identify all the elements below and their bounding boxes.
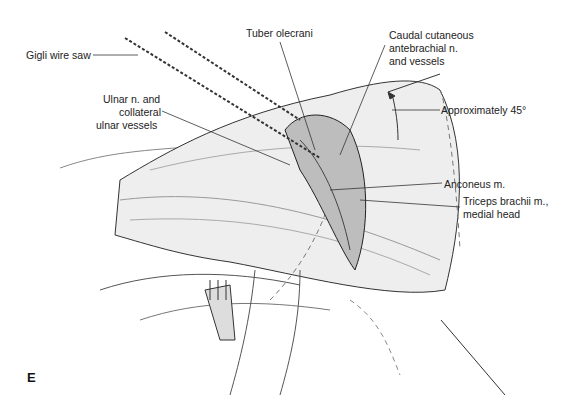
label-caudal-line2: antebrachial n. (389, 42, 458, 55)
label-ulnar-line3: ulnar vessels (96, 119, 157, 132)
retractor (205, 280, 235, 340)
label-triceps-line2: medial head (463, 208, 520, 221)
label-caudal-line3: and vessels (389, 55, 444, 68)
label-ulnar-line2: collateral (119, 106, 161, 119)
label-anconeus: Anconeus m. (444, 178, 505, 191)
label-gigli-wire-saw: Gigli wire saw (26, 49, 91, 62)
label-ulnar-line1: Ulnar n. and (103, 93, 160, 106)
label-tuber-olecrani: Tuber olecrani (246, 27, 313, 40)
label-caudal-line1: Caudal cutaneous (389, 29, 474, 42)
label-approximately-45: Approximately 45° (441, 104, 526, 117)
panel-letter: E (27, 370, 36, 385)
label-triceps-line1: Triceps brachii m., (463, 195, 548, 208)
